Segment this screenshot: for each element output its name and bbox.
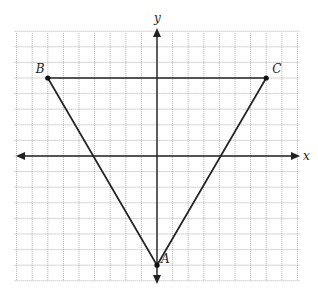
x-axis-label: x — [303, 149, 310, 163]
point-A — [154, 263, 159, 268]
point-label-B: B — [35, 62, 45, 76]
point-B — [45, 75, 50, 80]
y-axis-arrow-down — [153, 275, 161, 284]
y-axis-label: y — [153, 11, 161, 25]
point-label-A: A — [160, 252, 170, 266]
x-axis-arrow-left — [16, 152, 25, 160]
point-label-C: C — [272, 62, 281, 76]
x-axis-arrow-right — [291, 152, 300, 160]
coordinate-plane: x y BCA — [0, 0, 318, 300]
triangle-vertices: BCA — [35, 62, 282, 268]
y-axis-arrow-up — [153, 28, 161, 37]
point-C — [264, 75, 269, 80]
